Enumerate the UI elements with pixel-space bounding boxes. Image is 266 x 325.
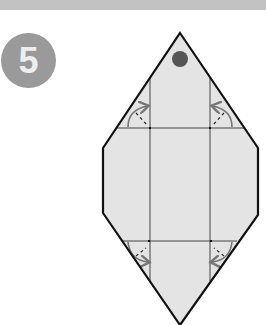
paper-shape — [103, 33, 258, 325]
origami-diagram — [0, 0, 266, 325]
reference-dot-icon — [172, 51, 188, 67]
